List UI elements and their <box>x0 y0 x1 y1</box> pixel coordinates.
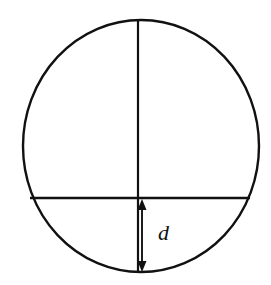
dimension-label-d: d <box>158 220 170 245</box>
geometry-diagram: d <box>0 0 271 285</box>
figure-root: d <box>0 0 271 285</box>
circle-outline <box>23 20 259 272</box>
